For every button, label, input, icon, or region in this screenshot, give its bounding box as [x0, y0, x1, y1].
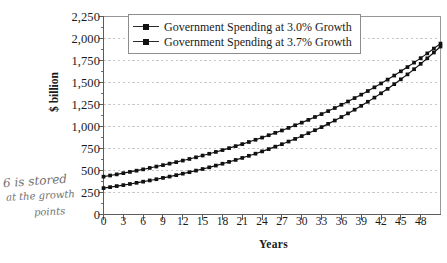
y-axis-title: $ billion — [48, 52, 60, 132]
x-axis-tick-label: 45 — [395, 216, 407, 228]
x-axis-tick-label: 39 — [355, 216, 367, 228]
x-axis-tick-label: 48 — [415, 216, 427, 228]
x-axis-tick-label: 30 — [296, 216, 308, 228]
annotation-line-2: at the growth — [6, 189, 75, 203]
x-axis-tick-label: 15 — [197, 216, 209, 228]
x-axis-tick-label: 9 — [160, 216, 166, 228]
x-axis-tick-label: 18 — [217, 216, 229, 228]
x-axis-tick-label: 3 — [120, 216, 126, 228]
x-axis-tick-label: 12 — [177, 216, 189, 228]
x-axis-tick-label: 36 — [336, 216, 348, 228]
legend-item: Government Spending at 3.7% Growth — [133, 34, 352, 49]
x-axis-tick-label: 0 — [101, 216, 107, 228]
legend-marker-square-icon — [133, 21, 159, 33]
x-axis-tick-label: 21 — [237, 216, 249, 228]
legend-item: Government Spending at 3.0% Growth — [133, 19, 352, 34]
x-axis-tick-label: 42 — [375, 216, 387, 228]
x-axis-title: Years — [100, 238, 447, 250]
legend-item-label: Government Spending at 3.7% Growth — [164, 36, 352, 48]
y-axis-tick-label: 750 — [52, 143, 100, 156]
x-axis-tick-label: 24 — [256, 216, 268, 228]
x-axis-tick-label: 27 — [276, 216, 288, 228]
y-axis-tick-label: 2,250 — [52, 11, 100, 24]
chart-legend: Government Spending at 3.0% Growth Gover… — [128, 14, 361, 54]
chart-figure: 02505007501,0001,2501,5001,7502,0002,250… — [0, 0, 447, 263]
y-axis-tick-label: 2,000 — [52, 33, 100, 46]
annotation-line-1: 6 is stored — [3, 173, 68, 189]
annotation-line-3: points — [34, 206, 66, 218]
handwritten-annotation: 6 is stored at the growth points — [2, 172, 98, 228]
x-axis-tick-label: 6 — [140, 216, 146, 228]
legend-marker-square-icon — [133, 36, 159, 48]
x-axis-tick-label: 33 — [316, 216, 328, 228]
legend-item-label: Government Spending at 3.0% Growth — [164, 21, 352, 33]
